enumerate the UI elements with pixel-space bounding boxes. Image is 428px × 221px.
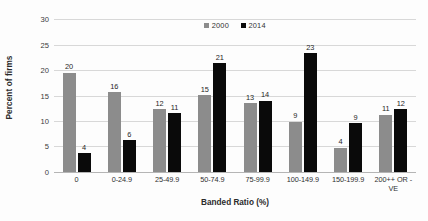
bar-value-label: 9	[354, 113, 358, 122]
bar-group: 11 12	[371, 19, 416, 172]
bar-value-label: 20	[65, 62, 73, 71]
bar-group: 20 4	[54, 19, 99, 172]
y-tick-label-5: 5	[45, 142, 49, 151]
bar-value-label: 6	[127, 130, 131, 139]
bar-2000[interactable]: 11	[379, 115, 392, 172]
bar-2000[interactable]: 16	[108, 92, 121, 172]
bar-2000[interactable]: 13	[244, 103, 257, 172]
bar-2014[interactable]: 6	[123, 140, 136, 172]
bar-2014[interactable]: 11	[168, 113, 181, 172]
bar-value-label: 15	[201, 85, 209, 94]
bar-group: 12 11	[145, 19, 190, 172]
bar-chart-figure: Percent of firms 30 25 20 15 10 5 0 2	[0, 0, 428, 221]
plot-area: 30 25 20 15 10 5 0 2000 2014	[54, 19, 416, 172]
y-tick-label-0: 0	[45, 168, 49, 177]
bar-2014[interactable]: 14	[259, 101, 272, 172]
bar-group: 4 9	[326, 19, 371, 172]
bar-value-label: 12	[156, 99, 164, 108]
bar-group: 13 14	[235, 19, 280, 172]
bar-value-label: 21	[216, 53, 224, 62]
bar-2014[interactable]: 21	[213, 63, 226, 172]
bar-2000[interactable]: 12	[153, 109, 166, 172]
bar-2014[interactable]: 9	[349, 123, 362, 172]
bar-2014[interactable]: 12	[394, 109, 407, 172]
y-tick-label-15: 15	[41, 91, 49, 100]
bar-value-label: 11	[171, 103, 179, 112]
bar-group: 16 6	[99, 19, 144, 172]
bar-value-label: 11	[382, 104, 390, 113]
y-tick-label-30: 30	[41, 15, 49, 24]
bar-value-label: 14	[261, 90, 269, 99]
bar-2000[interactable]: 15	[198, 95, 211, 172]
bar-value-label: 4	[339, 137, 343, 146]
bars-layer: 20 4 16 6 12 11	[54, 19, 416, 172]
bar-2000[interactable]: 9	[289, 122, 302, 172]
bar-group: 9 23	[280, 19, 325, 172]
y-tick-label-10: 10	[41, 117, 49, 126]
bar-2014[interactable]: 4	[78, 153, 91, 172]
gridline-0-baseline: 0	[54, 172, 416, 173]
x-axis-title: Banded Ratio (%)	[54, 198, 416, 207]
y-axis-title: Percent of firms	[3, 0, 17, 175]
bar-value-label: 9	[293, 111, 297, 120]
bar-2000[interactable]: 20	[63, 73, 76, 172]
bar-value-label: 4	[82, 143, 86, 152]
y-tick-label-20: 20	[41, 65, 49, 74]
y-axis-title-text: Percent of firms	[6, 56, 15, 120]
bar-value-label: 23	[306, 43, 314, 52]
bar-2000[interactable]: 4	[334, 148, 347, 172]
bar-value-label: 12	[397, 99, 405, 108]
bar-2014[interactable]: 23	[304, 53, 317, 172]
bar-value-label: 13	[246, 93, 254, 102]
bar-group: 15 21	[190, 19, 235, 172]
y-tick-label-25: 25	[41, 40, 49, 49]
bar-value-label: 16	[110, 82, 118, 91]
